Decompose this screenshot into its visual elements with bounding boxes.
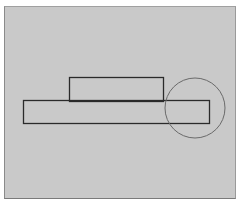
diagram-shapes	[0, 0, 240, 206]
top-rectangle	[70, 78, 164, 102]
base-rectangle	[24, 101, 210, 124]
highlight-circle	[165, 78, 225, 138]
